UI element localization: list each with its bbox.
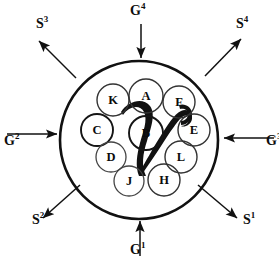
label-s4-sup: 4 [244,14,249,24]
external-label-layer: G4 S4 G3 S1 G1 S2 G2 S3 [0,0,279,261]
label-g2-sup: 2 [15,131,20,141]
label-s3-sup: 3 [44,14,49,24]
label-s2-sup: 2 [40,210,45,220]
label-s3-base: S [36,16,44,31]
label-g2-base: G [4,133,15,148]
label-s1-base: S [243,212,251,227]
label-s4: S4 [236,17,248,31]
label-s3: S3 [36,17,48,31]
label-g1-sup: 1 [141,240,146,250]
label-g4: G4 [130,4,145,18]
label-s2-base: S [32,212,40,227]
label-g1-base: G [130,242,141,257]
label-g3: G3 [266,134,279,148]
label-g2: G2 [4,134,19,148]
label-g3-sup: 3 [277,131,279,141]
label-s2: S2 [32,213,44,227]
label-s4-base: S [236,16,244,31]
label-g1: G1 [130,243,145,257]
label-s1: S1 [243,213,255,227]
diagram-canvas: K A F C E B D L J H G4 S4 G3 S1 G1 S2 G2… [0,0,279,261]
label-s1-sup: 1 [251,210,256,220]
label-g4-sup: 4 [141,1,146,11]
label-g3-base: G [266,133,277,148]
label-g4-base: G [130,3,141,18]
